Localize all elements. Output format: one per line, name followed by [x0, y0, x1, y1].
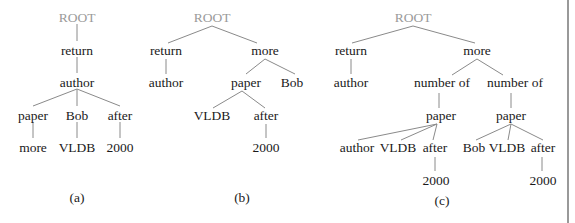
- tree-c-number-of-left-node: number of: [414, 75, 470, 90]
- tree-c-paper-left-node: paper: [426, 108, 456, 123]
- tree-a-author-node: author: [60, 75, 95, 90]
- tree-a: ROOT return author paper Bob after more …: [18, 10, 134, 205]
- tree-b-caption: (b): [234, 190, 250, 205]
- tree-a-year-node: 2000: [107, 140, 134, 155]
- tree-a-bob-node: Bob: [66, 108, 89, 123]
- tree-b-paper-node: paper: [231, 75, 261, 90]
- tree-c-caption: (c): [435, 193, 450, 208]
- tree-b: ROOT return more author paper Bob VLDB a…: [149, 10, 304, 205]
- tree-b-bob-node: Bob: [281, 75, 304, 90]
- tree-c-vldb-left-node: VLDB: [380, 140, 417, 155]
- tree-a-return-node: return: [61, 43, 93, 58]
- tree-a-paper-node: paper: [18, 108, 48, 123]
- tree-c: ROOT return more author number of number…: [334, 10, 557, 208]
- tree-c-paper-right-node: paper: [496, 108, 526, 123]
- tree-b-more-node: more: [251, 43, 279, 58]
- tree-b-year-node: 2000: [253, 140, 280, 155]
- tree-c-root-node: ROOT: [395, 10, 433, 25]
- tree-c-author-leaf-node: author: [340, 140, 375, 155]
- tree-c-bob-node: Bob: [463, 140, 486, 155]
- tree-c-after-left-node: after: [423, 140, 448, 155]
- tree-c-more-node: more: [463, 43, 491, 58]
- tree-a-vldb-node: VLDB: [59, 140, 96, 155]
- tree-c-year-right-node: 2000: [530, 173, 557, 188]
- tree-a-root-node: ROOT: [59, 10, 97, 25]
- parse-tree-figure: ROOT return author paper Bob after more …: [0, 0, 575, 223]
- tree-c-author-node: author: [334, 75, 369, 90]
- tree-c-after-right-node: after: [531, 140, 556, 155]
- tree-b-vldb-node: VLDB: [194, 108, 231, 123]
- tree-c-number-of-right-node: number of: [487, 75, 543, 90]
- tree-c-return-node: return: [335, 43, 367, 58]
- tree-a-caption: (a): [70, 190, 85, 205]
- tree-c-year-left-node: 2000: [423, 173, 450, 188]
- tree-b-root-node: ROOT: [194, 10, 232, 25]
- tree-a-after-node: after: [108, 108, 133, 123]
- tree-b-return-node: return: [150, 43, 182, 58]
- tree-c-vldb-right-node: VLDB: [489, 140, 526, 155]
- tree-b-author-node: author: [149, 75, 184, 90]
- tree-b-after-node: after: [254, 108, 279, 123]
- tree-a-more-node: more: [19, 140, 47, 155]
